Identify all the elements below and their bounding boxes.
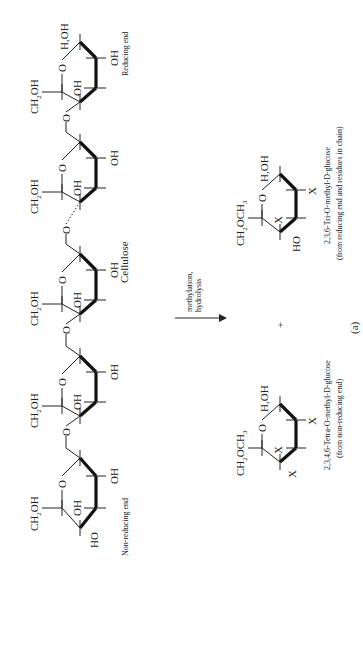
- unit2-ring-oxygen: O: [56, 378, 68, 386]
- unit5-c2-oh: OH: [108, 50, 120, 66]
- product1-c6-label: CH2OCH3: [234, 430, 249, 476]
- unit1-ring-oxygen: O: [56, 480, 68, 488]
- unit1-c4-ho: HO: [88, 532, 100, 548]
- product2-name: 2,3,6-Tri-O-methyl-D-glucose: [323, 147, 332, 244]
- glucose-unit-1: [42, 450, 106, 536]
- product2-ho-c4: HO: [290, 236, 302, 252]
- non-reducing-end-label: Non-reducing end: [121, 498, 130, 556]
- product2-source: (from reducing end and residues in chain…: [335, 126, 344, 260]
- unit5-c6-label: CH2OH: [28, 79, 43, 114]
- arrowhead-icon: [219, 314, 227, 322]
- glucose-unit-5: [42, 34, 106, 110]
- unit1-c2-oh: OH: [108, 468, 120, 484]
- unit1-c3-oh: OH: [71, 500, 83, 516]
- product1-ring-oxygen: O: [256, 424, 268, 432]
- plus-sign: +: [274, 322, 286, 328]
- cellulose-label: Cellulose: [118, 241, 130, 283]
- glycosidic-oxygen-4: O: [60, 114, 72, 122]
- product1-source: (from non-reducing end): [335, 379, 344, 458]
- product-2-ring: [248, 166, 306, 240]
- unit5-c3-oh: OH: [71, 80, 83, 96]
- unit2-c6-label: CH2OH: [28, 393, 43, 428]
- unit5-anomeric-h-oh: H,OH: [58, 23, 70, 50]
- product1-name: 2,3,4,6-Tetra-O-methyl-D-glucose: [323, 360, 332, 470]
- unit4-c2-oh: OH: [108, 150, 120, 166]
- unit5-ring-oxygen: O: [56, 64, 68, 72]
- product2-x-c3: X: [272, 216, 284, 224]
- unit3-ring-oxygen: O: [56, 276, 68, 284]
- product2-x-c2: X: [306, 187, 318, 195]
- chain-continuation-dots: [66, 202, 80, 224]
- panel-label: (a): [348, 321, 361, 334]
- arrow-label-hydrolysis: hydrolysis: [194, 279, 203, 312]
- glycosidic-oxygen-1: O: [60, 428, 72, 436]
- glucose-unit-4: [42, 134, 106, 210]
- product2-ring-oxygen: O: [256, 194, 268, 202]
- product1-x-c2: X: [306, 417, 318, 425]
- unit1-c6-label: CH2OH: [28, 496, 43, 531]
- unit4-ring-oxygen: O: [56, 164, 68, 172]
- glycosidic-bond-1: [66, 436, 80, 458]
- product-1-ring: [248, 396, 306, 470]
- unit3-c3-oh: OH: [71, 292, 83, 308]
- glucose-unit-3: [42, 246, 106, 322]
- product1-x-c3: X: [272, 446, 284, 454]
- product2-anomeric-h-oh: H,OH: [258, 155, 270, 182]
- cellulose-methylation-diagram: CH2OH O OH OH HO O CH2OH O OH OH O: [0, 0, 363, 648]
- unit2-c3-oh: OH: [71, 394, 83, 410]
- glycosidic-bond-2: [66, 334, 80, 356]
- reducing-end-label: Reducing end: [121, 32, 130, 76]
- glucose-unit-2: [42, 348, 106, 424]
- unit4-c6-label: CH2OH: [28, 179, 43, 214]
- unit4-c3-oh: OH: [71, 180, 83, 196]
- product1-x-c4: X: [286, 470, 298, 478]
- product1-anomeric-h-oh: H,OH: [258, 385, 270, 412]
- arrow-label-methylation: methylation,: [185, 272, 194, 312]
- glycosidic-oxygen-3: O: [60, 226, 72, 234]
- unit2-c2-oh: OH: [108, 364, 120, 380]
- product2-c6-label: CH2OCH3: [234, 200, 249, 246]
- diagram-stage: CH2OH O OH OH HO O CH2OH O OH OH O: [0, 0, 363, 648]
- unit3-c6-label: CH2OH: [28, 291, 43, 326]
- glycosidic-oxygen-2: O: [60, 326, 72, 334]
- glycosidic-bond-4: [66, 122, 80, 142]
- glycosidic-bond-3: [66, 234, 80, 254]
